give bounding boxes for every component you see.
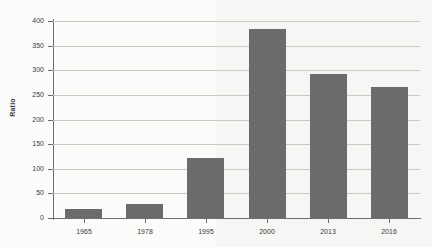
x-axis-tick-label: 2016 [369,228,409,235]
gridline [53,218,420,219]
bar [126,204,163,218]
y-axis-tick-label: 350 [18,42,44,49]
gridline [53,95,420,96]
x-axis-tick-mark [145,219,146,223]
x-axis-tick-label: 1978 [125,228,165,235]
y-axis-tick-label: 400 [18,17,44,24]
bar [65,209,102,218]
x-axis-tick-mark [206,219,207,223]
x-axis-tick-mark [84,219,85,223]
x-axis-tick-label: 1995 [186,228,226,235]
plot-area [53,21,420,218]
gridline [53,144,420,145]
x-axis-tick-label: 2013 [308,228,348,235]
x-axis-tick-mark [328,219,329,223]
bar-chart: Ratio 050100150200250300350400 196519781… [0,0,432,247]
x-axis-tick-label: 2000 [247,228,287,235]
bar [249,29,286,218]
gridline [53,169,420,170]
gridline [53,21,420,22]
gridline [53,120,420,121]
gridline [53,193,420,194]
y-axis-tick-label: 150 [18,140,44,147]
x-axis-tick-label: 1965 [64,228,104,235]
y-axis-tick-label: 100 [18,165,44,172]
bar [187,158,224,218]
y-axis-tick-label: 300 [18,66,44,73]
y-axis-tick-label: 0 [18,214,44,221]
gridline [53,46,420,47]
y-axis-tick-label: 50 [18,189,44,196]
bar [310,74,347,218]
gridline [53,70,420,71]
y-axis-tick-label: 200 [18,116,44,123]
y-axis-title: Ratio [9,84,16,132]
y-axis-tick-label: 250 [18,91,44,98]
x-axis-tick-mark [389,219,390,223]
bar [371,87,408,218]
x-axis-tick-mark [267,219,268,223]
